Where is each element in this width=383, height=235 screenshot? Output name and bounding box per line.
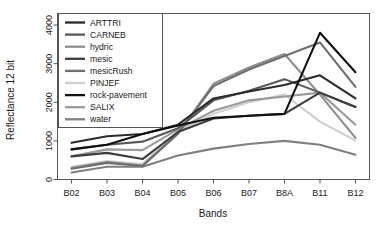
y-tick-label: 0 bbox=[44, 177, 54, 182]
x-axis-tick-labels: B02B03B04B05B06B07B8AB11B12 bbox=[64, 188, 364, 198]
x-tick-label: B12 bbox=[347, 188, 363, 198]
legend-label-carneb: CARNEB bbox=[90, 30, 126, 40]
x-tick-label: B8A bbox=[276, 188, 293, 198]
y-tick-label: 3000 bbox=[44, 54, 54, 74]
y-tick-label: 1000 bbox=[44, 131, 54, 151]
x-tick-label: B02 bbox=[64, 188, 80, 198]
legend-label-mesicrush: mesicRush bbox=[90, 66, 133, 76]
legend-label-salix: SALIX bbox=[90, 102, 115, 112]
y-tick-label: 4000 bbox=[44, 15, 54, 35]
legend-label-arttri: ARTTRI bbox=[90, 18, 121, 28]
legend-label-pinjef: PINJEF bbox=[90, 78, 120, 88]
x-tick-label: B06 bbox=[205, 188, 221, 198]
legend-label-hydric: hydric bbox=[90, 42, 114, 52]
x-tick-label: B03 bbox=[99, 188, 115, 198]
chart-figure: 01000200030004000 Reflectance 12 bit B02… bbox=[0, 0, 383, 235]
reflectance-line-chart: 01000200030004000 Reflectance 12 bit B02… bbox=[0, 0, 383, 235]
legend-label-rock-pavement: rock-pavement bbox=[90, 90, 147, 100]
legend-label-water: water bbox=[89, 114, 111, 124]
y-tick-label: 2000 bbox=[44, 92, 54, 112]
y-axis-title: Reflectance 12 bit bbox=[5, 60, 16, 140]
x-axis-title: Bands bbox=[199, 208, 227, 219]
x-tick-label: B04 bbox=[135, 188, 151, 198]
legend-label-mesic: mesic bbox=[90, 54, 113, 64]
x-tick-label: B07 bbox=[241, 188, 257, 198]
x-tick-label: B11 bbox=[312, 188, 327, 198]
x-tick-label: B05 bbox=[170, 188, 186, 198]
